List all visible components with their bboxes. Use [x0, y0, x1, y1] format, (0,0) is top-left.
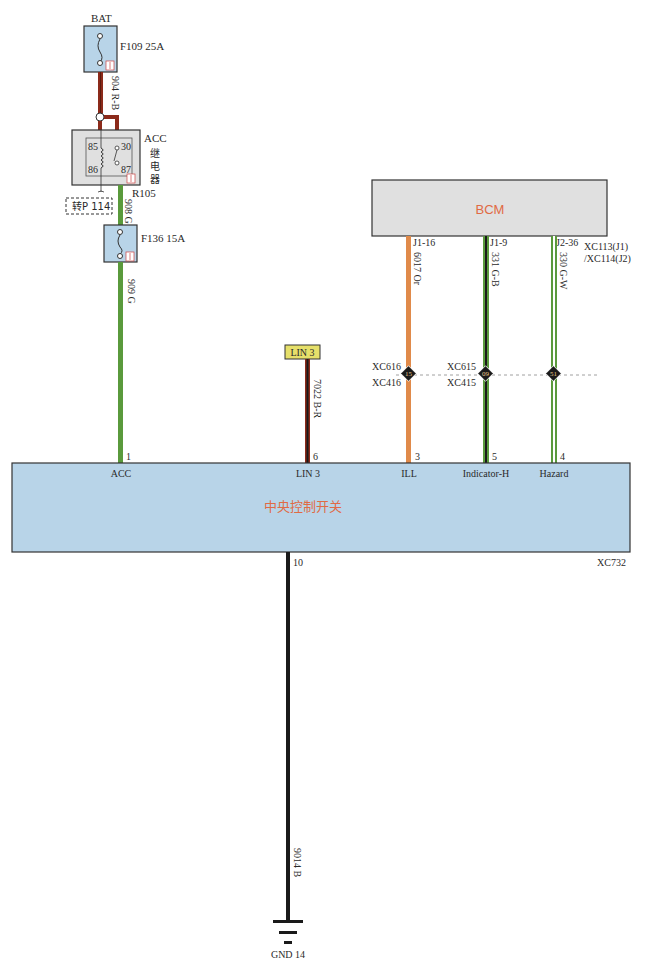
fuse-f136	[104, 225, 137, 262]
wire-330-label: 330 G-W	[558, 252, 569, 290]
wire-9014-label: 9014 B	[292, 848, 303, 878]
wire-904	[98, 72, 103, 116]
switch-pin-10: 10	[293, 557, 303, 568]
wire-7022-label: 7022 B-R	[312, 379, 323, 419]
svg-text:09: 09	[482, 370, 490, 378]
connector-xc415: XC415	[447, 377, 476, 388]
switch-pin-6: 6	[313, 451, 318, 462]
splice-09: 09	[478, 366, 494, 382]
fuse-f109	[84, 26, 117, 72]
connector-xc416: XC416	[372, 377, 401, 388]
switch-connector-xc732: XC732	[597, 557, 626, 568]
battery-label: BAT	[91, 12, 112, 24]
ground-label: GND 14	[271, 949, 305, 960]
splice-15: 15	[401, 366, 417, 382]
switch-pin-name-hazard: Hazard	[540, 468, 569, 479]
acc-relay	[72, 130, 140, 192]
relay-pin-85: 85	[88, 141, 98, 152]
relay-name-char3: 器	[150, 174, 160, 185]
wire-909	[118, 262, 123, 463]
bcm-connector-line2: /XC114(J2)	[584, 253, 631, 265]
ground-icon	[273, 920, 303, 944]
switch-title: 中央控制开关	[264, 499, 342, 514]
bcm-title: BCM	[476, 202, 505, 217]
wire-331	[483, 236, 489, 463]
wire-330	[551, 236, 557, 463]
lin3-tag-label: LIN 3	[290, 347, 314, 358]
relay-name-char2: 电	[150, 160, 160, 172]
relay-pin-86: 86	[88, 164, 98, 175]
relay-name-char1: 继	[150, 147, 160, 159]
bcm-connector-line1: XC113(J1)	[584, 241, 628, 253]
connector-xc615: XC615	[447, 361, 476, 372]
wire-331-label: 331 G-B	[490, 252, 501, 287]
fuse-f136-label: F136 15A	[141, 232, 185, 244]
svg-text:15: 15	[405, 370, 413, 378]
wire-908-label: 908 G	[123, 199, 134, 224]
connector-xc616: XC616	[372, 361, 401, 372]
wire-909-label: 909 G	[126, 279, 137, 304]
splice-51: 51	[546, 366, 562, 382]
wire-908	[118, 185, 123, 225]
bcm-pin-j2-36: J2-36	[556, 237, 578, 248]
wire-6017-label: 6017 Or	[412, 252, 423, 286]
switch-pin-name-ill: ILL	[401, 468, 417, 479]
bcm-pin-j1-9: J1-9	[490, 237, 507, 248]
wiring-diagram: BAT F109 25A 904 R-B 85 86 30 87 ACC 继 电…	[0, 0, 649, 973]
fuse-f109-label: F109 25A	[120, 40, 164, 52]
relay-pin-87: 87	[121, 164, 131, 175]
goto-ref-box[interactable]: 转P 114	[66, 198, 112, 214]
bcm-pin-j1-16: J1-16	[413, 237, 435, 248]
relay-pin-30: 30	[121, 141, 131, 152]
relay-ref: R105	[132, 187, 156, 199]
wire-9014	[286, 552, 290, 920]
wire-904-label: 904 R-B	[110, 76, 121, 111]
switch-pin-3: 3	[415, 451, 420, 462]
switch-pin-4: 4	[560, 451, 565, 462]
switch-pin-5: 5	[492, 451, 497, 462]
wire-7022	[305, 359, 310, 463]
switch-pin-name-acc: ACC	[111, 468, 132, 479]
switch-pin-name-indicator-h: Indicator-H	[463, 468, 509, 479]
splice-point	[96, 113, 104, 121]
wire-6017	[406, 236, 411, 463]
goto-ref-label: 转P 114	[72, 200, 110, 212]
svg-text:51: 51	[550, 370, 558, 378]
switch-pin-name-lin3: LIN 3	[296, 468, 320, 479]
switch-pin-1: 1	[126, 451, 131, 462]
relay-name-acc: ACC	[144, 132, 167, 144]
